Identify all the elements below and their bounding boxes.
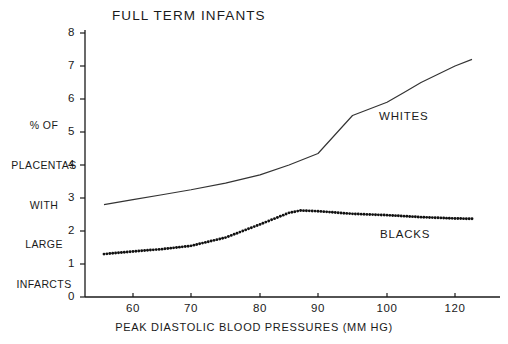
series-marker bbox=[123, 251, 126, 254]
series-marker bbox=[210, 240, 213, 243]
series-marker bbox=[357, 213, 360, 216]
y-tick-label: 7 bbox=[57, 59, 75, 71]
x-tick-label: 100 bbox=[372, 302, 402, 314]
series-marker bbox=[213, 239, 216, 242]
series-marker bbox=[270, 218, 273, 221]
y-tick-label: 5 bbox=[57, 125, 75, 137]
series-marker bbox=[224, 236, 227, 239]
series-marker bbox=[218, 238, 221, 241]
series-marker bbox=[439, 216, 442, 219]
series-marker bbox=[302, 209, 305, 212]
series-marker bbox=[394, 214, 397, 217]
series-marker bbox=[293, 210, 296, 213]
series-marker bbox=[451, 217, 454, 220]
series-marker bbox=[345, 212, 348, 215]
x-tick-label: 60 bbox=[118, 302, 148, 314]
series-marker bbox=[383, 214, 386, 217]
series-marker bbox=[108, 252, 111, 255]
series-marker bbox=[380, 213, 383, 216]
y-tick-label: 4 bbox=[57, 158, 75, 170]
series-marker bbox=[169, 247, 172, 250]
series-marker bbox=[126, 251, 129, 254]
series-marker bbox=[192, 244, 195, 247]
chart-figure: FULL TERM INFANTS % OF PLACENTAS WITH LA… bbox=[0, 0, 508, 344]
series-marker bbox=[348, 212, 351, 215]
series-marker bbox=[417, 216, 420, 219]
series-marker bbox=[146, 249, 149, 252]
series-marker bbox=[184, 245, 187, 248]
series-marker bbox=[114, 252, 117, 255]
series-marker bbox=[264, 221, 267, 224]
series-marker bbox=[308, 209, 311, 212]
series-marker bbox=[247, 227, 250, 230]
series-marker bbox=[181, 245, 184, 248]
series-marker bbox=[259, 223, 262, 226]
y-tick-marks bbox=[80, 33, 85, 297]
series-marker bbox=[221, 237, 224, 240]
series-marker bbox=[187, 245, 190, 248]
series-marker bbox=[334, 211, 337, 214]
series-marker bbox=[377, 213, 380, 216]
series-marker bbox=[117, 251, 120, 254]
series-marker bbox=[405, 215, 408, 218]
series-marker bbox=[462, 217, 465, 220]
series-marker bbox=[322, 210, 325, 213]
series-marker bbox=[331, 211, 334, 214]
series-marker bbox=[253, 225, 256, 228]
series-marker bbox=[342, 212, 345, 215]
series-marker bbox=[233, 233, 236, 236]
y-tick-label: 6 bbox=[57, 92, 75, 104]
series-marker bbox=[227, 235, 230, 238]
series-marker bbox=[371, 213, 374, 216]
x-tick-label: 120 bbox=[440, 302, 470, 314]
series-marker bbox=[256, 224, 259, 227]
series-path-blacks bbox=[103, 209, 474, 255]
series-marker bbox=[158, 248, 161, 251]
series-marker bbox=[368, 213, 371, 216]
series-marker bbox=[414, 215, 417, 218]
series-marker bbox=[319, 210, 322, 213]
series-marker bbox=[230, 234, 233, 237]
series-marker bbox=[238, 231, 241, 234]
series-marker bbox=[374, 213, 377, 216]
series-marker bbox=[140, 249, 143, 252]
series-marker bbox=[465, 217, 468, 220]
plot-area bbox=[0, 0, 508, 344]
x-tick-label: 90 bbox=[303, 302, 333, 314]
series-marker bbox=[207, 240, 210, 243]
series-marker bbox=[388, 214, 391, 217]
series-marker bbox=[363, 213, 366, 216]
series-marker bbox=[178, 246, 181, 249]
series-marker bbox=[296, 210, 299, 213]
y-tick-label: 2 bbox=[57, 224, 75, 236]
series-marker bbox=[175, 246, 178, 249]
series-marker bbox=[403, 215, 406, 218]
series-marker bbox=[152, 248, 155, 251]
series-marker bbox=[428, 216, 431, 219]
series-marker bbox=[195, 243, 198, 246]
y-tick-label: 3 bbox=[57, 191, 75, 203]
series-marker bbox=[137, 250, 140, 253]
series-marker bbox=[111, 252, 114, 255]
y-tick-label: 0 bbox=[57, 290, 75, 302]
series-marker bbox=[103, 253, 106, 256]
series-marker bbox=[431, 216, 434, 219]
series-marker bbox=[132, 250, 135, 253]
series-marker bbox=[454, 217, 457, 220]
series-marker bbox=[445, 217, 448, 220]
series-marker bbox=[279, 215, 282, 218]
series-marker bbox=[456, 217, 459, 220]
series-marker bbox=[422, 216, 425, 219]
series-marker bbox=[337, 211, 340, 214]
series-marker bbox=[198, 242, 201, 245]
series-marker bbox=[261, 222, 264, 225]
series-marker bbox=[408, 215, 411, 218]
series-marker bbox=[276, 216, 279, 219]
series-marker bbox=[351, 212, 354, 215]
series-marker bbox=[282, 214, 285, 217]
series-marker bbox=[459, 217, 462, 220]
series-marker bbox=[215, 238, 218, 241]
series-marker bbox=[391, 214, 394, 217]
series-marker bbox=[172, 246, 175, 249]
series-marker bbox=[471, 217, 474, 220]
